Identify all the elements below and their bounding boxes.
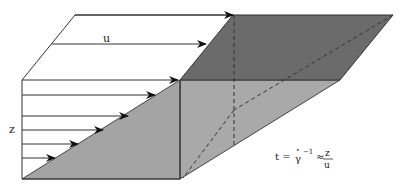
shear-flow-diagram: u z t = γ • −1 ≈ z u xyxy=(0,0,404,187)
height-label: z xyxy=(9,123,15,136)
velocity-label: u xyxy=(103,32,110,45)
equation-lhs: t = xyxy=(275,151,291,162)
equation: t = γ • −1 ≈ z u xyxy=(275,146,333,170)
equation-numerator: z xyxy=(325,148,330,158)
equation-denominator: u xyxy=(324,160,330,170)
equation-exponent: −1 xyxy=(303,148,313,156)
top-face xyxy=(180,15,393,80)
equation-gamma: γ xyxy=(295,153,301,164)
equation-gamma-dot: • xyxy=(296,146,300,153)
